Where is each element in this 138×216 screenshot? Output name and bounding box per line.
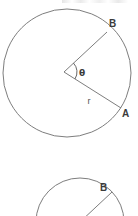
point-label-b-top: B — [109, 18, 116, 29]
point-label-b-bottom: B — [100, 182, 107, 193]
radius-line-to-b-top — [64, 32, 107, 72]
angle-measure-label-theta: θ — [79, 68, 85, 78]
radius-line-to-a-top — [64, 72, 121, 108]
lower-circle-diagram: B — [36, 178, 124, 216]
figure-canvas: Circle sector with central angle theta a… — [0, 0, 138, 216]
geometry-diagram-container: Circle sector with central angle theta a… — [0, 0, 138, 216]
point-label-a-top: A — [122, 108, 129, 119]
upper-circle-diagram: B A r θ — [3, 9, 131, 137]
circle-outline-bottom — [36, 178, 124, 216]
radius-measure-label-r: r — [88, 96, 91, 106]
radius-line-to-b-bottom — [80, 192, 112, 216]
central-angle-arc-icon — [74, 63, 77, 79]
